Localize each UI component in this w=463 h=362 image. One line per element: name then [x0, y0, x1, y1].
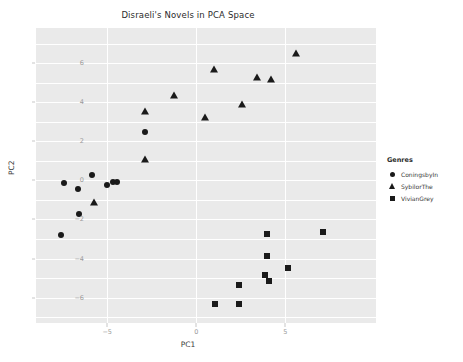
y-axis-label: PC2: [7, 160, 16, 175]
legend-item-label: ConingsbyIn: [401, 171, 438, 178]
data-point-circle: [142, 129, 148, 135]
gridline-horizontal: [36, 298, 376, 299]
gridline-horizontal: [36, 141, 376, 142]
data-point-triangle: [267, 75, 275, 82]
data-point-triangle: [90, 199, 98, 206]
data-point-triangle: [201, 114, 209, 121]
y-axis-tick-label: −4: [74, 255, 84, 263]
data-point-square: [236, 282, 242, 288]
gridline-horizontal: [36, 219, 376, 220]
y-axis-tick-mark: [32, 141, 35, 142]
data-point-triangle: [141, 108, 149, 115]
y-axis-tick-mark: [32, 297, 35, 298]
circle-marker-icon: [387, 172, 397, 177]
gridline-vertical: [196, 28, 197, 323]
data-point-triangle: [253, 73, 261, 80]
x-axis-tick-mark: [107, 323, 108, 327]
y-axis-tick-label: −6: [74, 294, 84, 302]
gridline-horizontal-minor: [36, 44, 376, 45]
data-point-square: [262, 272, 268, 278]
x-axis-tick-label: −5: [102, 328, 112, 336]
gridline-vertical: [107, 28, 108, 323]
data-point-square: [266, 278, 272, 284]
legend-title: Genres: [387, 156, 457, 164]
chart-title: Disraeli's Novels in PCA Space: [0, 10, 376, 20]
gridline-horizontal-minor: [36, 161, 376, 162]
gridline-horizontal-minor: [36, 122, 376, 123]
legend-item-sybil[interactable]: SybilorThe: [387, 180, 457, 192]
x-axis-tick-label: 5: [283, 328, 287, 336]
data-point-triangle: [238, 101, 246, 108]
y-axis-tick-mark: [32, 180, 35, 181]
data-point-square: [236, 301, 242, 307]
gridline-horizontal: [36, 63, 376, 64]
legend-item-label: SybilorThe: [401, 183, 433, 190]
x-axis-label: PC1: [0, 340, 376, 349]
triangle-marker-icon: [387, 183, 397, 189]
x-axis-tick-mark: [285, 323, 286, 327]
y-axis-tick-label: 2: [80, 137, 84, 145]
gridline-horizontal-minor: [36, 317, 376, 318]
x-axis-tick-label: 0: [194, 328, 198, 336]
gridline-horizontal-minor: [36, 239, 376, 240]
data-point-circle: [114, 179, 120, 185]
y-axis-tick-mark: [32, 63, 35, 64]
gridline-horizontal-minor: [36, 83, 376, 84]
y-axis-tick-mark: [32, 219, 35, 220]
data-point-circle: [75, 186, 81, 192]
data-point-circle: [58, 232, 64, 238]
y-axis-tick-mark: [32, 258, 35, 259]
y-axis-tick-mark: [32, 102, 35, 103]
data-point-triangle: [292, 50, 300, 57]
gridline-vertical: [285, 28, 286, 323]
y-axis-tick-label: 0: [80, 176, 84, 184]
data-point-square: [264, 231, 270, 237]
legend-item-coningsby[interactable]: ConingsbyIn: [387, 168, 457, 180]
legend-item-label: VivianGrey: [401, 195, 434, 202]
plot-area: [36, 28, 376, 323]
data-point-circle: [89, 172, 95, 178]
data-point-square: [320, 229, 326, 235]
data-point-triangle: [170, 92, 178, 99]
gridline-horizontal: [36, 102, 376, 103]
y-axis-tick-label: 6: [80, 59, 84, 67]
data-point-triangle: [210, 66, 218, 73]
data-point-circle: [61, 180, 67, 186]
scatter-plot-figure: Disraeli's Novels in PCA Space PC1 PC2 G…: [0, 0, 463, 362]
y-axis-tick-label: −2: [74, 215, 84, 223]
data-point-square: [212, 301, 218, 307]
gridline-horizontal: [36, 259, 376, 260]
x-axis-tick-mark: [196, 323, 197, 327]
data-point-square: [285, 265, 291, 271]
gridline-horizontal-minor: [36, 278, 376, 279]
data-point-square: [264, 253, 270, 259]
square-marker-icon: [387, 196, 397, 201]
legend-item-viviangrey[interactable]: VivianGrey: [387, 192, 457, 204]
legend: Genres ConingsbyIn SybilorThe VivianGrey: [387, 156, 457, 204]
gridline-horizontal-minor: [36, 200, 376, 201]
data-point-triangle: [141, 155, 149, 162]
gridline-horizontal: [36, 180, 376, 181]
y-axis-tick-label: 4: [80, 98, 84, 106]
